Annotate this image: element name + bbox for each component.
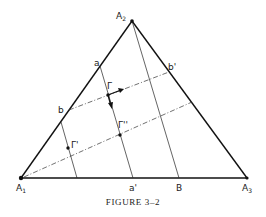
line-through-gamma-prime [61,122,77,178]
triangle-diagram: A2 A1 A3 a b b' a' B Γ Γ' Γ'' FIGURE 3–2 [0,0,266,217]
gamma-double-prime-dot [118,133,121,136]
label-gamma-double-prime: Γ'' [118,120,128,130]
label-b-prime: b' [168,62,176,72]
line-a2-b [132,21,179,178]
label-gamma: Γ [107,81,112,91]
label-gamma-prime: Γ' [71,140,79,150]
points [19,19,249,180]
vertex-a2-dot [130,19,134,23]
label-b: b [58,105,64,115]
vertex-a3-dot [245,176,248,179]
label-a-prime: a' [129,183,137,193]
figure-caption: FIGURE 3–2 [106,197,160,207]
line-a-a-prime [100,66,133,178]
parallel-solid-lines [61,21,179,178]
label-B: B [176,183,182,193]
triangle-edges [21,21,247,178]
labels: A2 A1 A3 a b b' a' B Γ Γ' Γ'' [16,11,252,194]
line-a1-through-gamma-double-prime [24,102,192,177]
label-a2: A2 [116,11,126,22]
gamma-dot [106,93,109,96]
gamma-prime-dot [66,146,69,149]
label-a3: A3 [242,183,252,194]
gamma-arrows [108,88,124,109]
edge-a1-a2 [21,21,132,178]
label-a1: A1 [16,183,26,194]
edge-a2-a3 [132,21,247,178]
vertex-a1-dot [19,176,23,180]
label-a: a [94,58,100,68]
